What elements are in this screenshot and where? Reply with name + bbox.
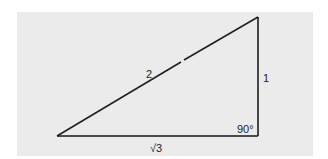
- base-label: √3: [150, 142, 162, 154]
- right-angle-label: 90°: [237, 123, 254, 135]
- diagram-background: [17, 12, 313, 156]
- vertical-leg-label: 1: [263, 72, 269, 84]
- hypotenuse-label: 2: [146, 68, 152, 80]
- triangle-diagram: 2 1 90° √3: [0, 0, 328, 159]
